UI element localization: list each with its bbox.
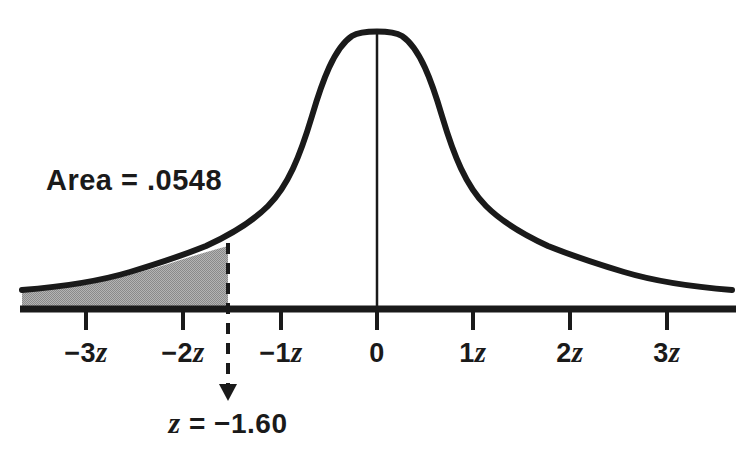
x-tick-label-plus-2z: 2z (556, 338, 583, 367)
tick-variable: z (291, 336, 303, 368)
shaded-tail-area (22, 246, 228, 309)
x-tick-label-plus-1z: 1z (459, 338, 486, 367)
tick-text: 0 (369, 338, 385, 368)
z-value-text: = −1.60 (181, 408, 288, 439)
tick-text: −3 (64, 338, 96, 368)
tick-text: −1 (259, 338, 291, 368)
tick-variable: z (669, 336, 681, 368)
tick-text: 1 (459, 338, 475, 368)
tick-variable: z (96, 336, 108, 368)
z-critical-value-label: z = −1.60 (169, 408, 288, 438)
tick-text: 2 (556, 338, 572, 368)
x-tick-label-minus-3z: −3z (64, 338, 108, 367)
x-tick-label-plus-3z: 3z (653, 338, 680, 367)
z-critical-arrowhead (219, 384, 237, 401)
tick-variable: z (475, 336, 487, 368)
area-annotation-label: Area = .0548 (46, 166, 222, 195)
x-axis-ticks (86, 310, 667, 330)
x-tick-label-minus-2z: −2z (161, 338, 205, 367)
tick-variable: z (572, 336, 584, 368)
distribution-chart-svg (0, 0, 756, 468)
x-tick-label-minus-1z: −1z (259, 338, 303, 367)
tick-text: −2 (161, 338, 193, 368)
tick-variable: z (193, 336, 205, 368)
tick-text: 3 (653, 338, 669, 368)
normal-distribution-figure: Area = .0548 −3z −2z −1z 0 1z 2z 3z z = … (0, 0, 756, 468)
x-tick-label-zero: 0 (369, 338, 385, 367)
z-variable-symbol: z (169, 406, 181, 439)
